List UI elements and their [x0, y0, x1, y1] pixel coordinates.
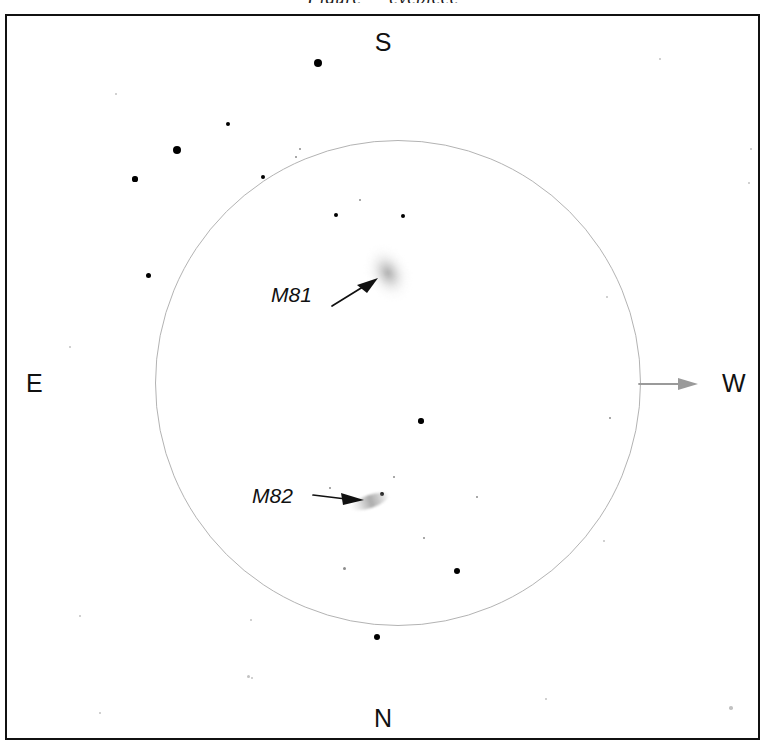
- leader-arrow-m81-icon: [330, 276, 380, 310]
- clipped-caption-text: Figure — eyepiece: [0, 0, 766, 3]
- compass-label-west: W: [722, 371, 746, 396]
- star-point: [132, 176, 137, 181]
- star-point: [729, 706, 733, 710]
- star-point: [146, 273, 151, 278]
- compass-label-east: E: [26, 371, 43, 396]
- star-point: [418, 418, 423, 423]
- compass-label-north: N: [0, 706, 766, 731]
- star-point: [343, 567, 346, 570]
- leader-arrow-m82-icon: [312, 487, 366, 509]
- object-label-m82: M82: [252, 485, 293, 506]
- star-point: [314, 59, 322, 67]
- compass-label-south: S: [0, 30, 766, 55]
- field-of-view-circle: [155, 140, 641, 626]
- star-chart-page: Figure — eyepiece S N E W M81 M82: [0, 0, 766, 747]
- star-point: [247, 675, 250, 678]
- drift-direction-arrow-icon: [638, 376, 700, 392]
- object-label-m81: M81: [271, 284, 312, 305]
